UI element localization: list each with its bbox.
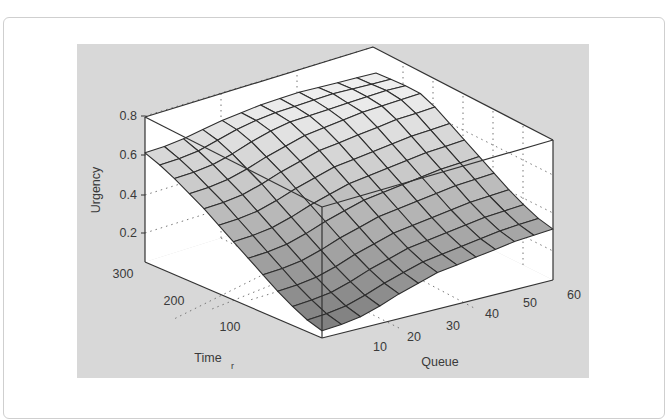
x-tick-label: 50	[523, 296, 537, 310]
y-tick-label: 100	[220, 320, 241, 334]
x-tick-label: 30	[446, 319, 460, 333]
x-tick-label: 40	[485, 307, 499, 321]
z-tick-label: 0.6	[120, 148, 137, 162]
x-axis-label: Queue	[421, 355, 459, 369]
x-tick-label: 20	[407, 330, 421, 344]
y-tick-label: 300	[113, 267, 134, 281]
z-tick-label: 0.4	[120, 188, 137, 202]
y-tick-label: 200	[164, 294, 185, 308]
z-tick-label: 0.2	[120, 226, 137, 240]
z-tick-label: 0.8	[120, 109, 137, 123]
z-axis-label: Urgency	[89, 166, 103, 213]
y-axis-label: Time	[194, 351, 221, 365]
x-tick-label: 10	[373, 340, 387, 354]
x-tick-label: 60	[567, 288, 581, 302]
y-axis-label-subscript: r	[231, 361, 234, 371]
